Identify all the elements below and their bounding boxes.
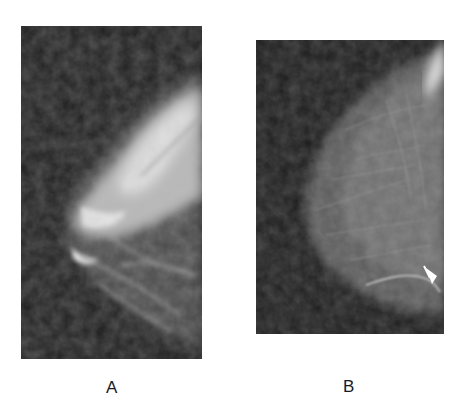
panel-label-a: A [106, 379, 117, 396]
mammogram-image-b [256, 40, 444, 334]
mammogram-panel-b [256, 40, 444, 334]
mammogram-panel-a [21, 26, 202, 359]
panel-label-b: B [343, 378, 354, 395]
mammogram-image-a [21, 26, 202, 359]
